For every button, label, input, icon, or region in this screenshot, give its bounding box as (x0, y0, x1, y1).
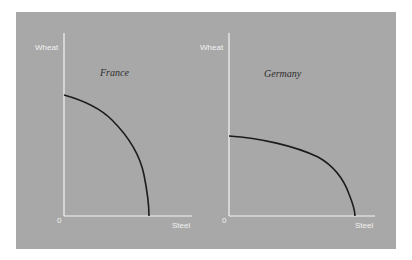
france-title: France (99, 67, 129, 78)
ppf-chart: Wheat 0 Steel France Wheat 0 Steel Germa… (0, 0, 412, 260)
germany-y-axis-label: Wheat (200, 43, 224, 52)
france-origin-label: 0 (57, 216, 62, 225)
germany-title: Germany (264, 68, 302, 79)
germany-chart: Wheat 0 Steel Germany (200, 33, 375, 230)
france-y-axis-label: Wheat (35, 43, 59, 52)
germany-origin-label: 0 (222, 216, 227, 225)
france-chart: Wheat 0 Steel France (35, 33, 192, 230)
france-x-axis-label: Steel (172, 221, 190, 230)
france-ppf-curve (64, 95, 149, 216)
germany-x-axis-label: Steel (355, 221, 373, 230)
germany-ppf-curve (229, 136, 355, 216)
